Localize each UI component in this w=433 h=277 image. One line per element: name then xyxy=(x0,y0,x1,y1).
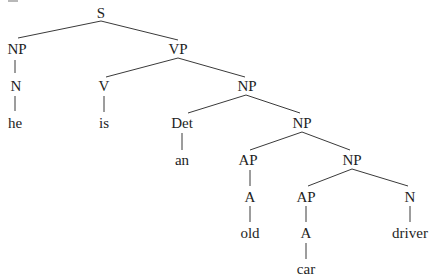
edge-s-vp xyxy=(101,21,178,40)
edge-s-np1 xyxy=(18,21,101,38)
node-det: Det xyxy=(171,115,193,131)
node-np4: NP xyxy=(342,152,361,168)
node-is: is xyxy=(99,115,109,131)
node-n1: N xyxy=(11,78,22,94)
node-v: V xyxy=(99,78,110,94)
node-n2: N xyxy=(405,189,416,205)
node-he: he xyxy=(8,115,23,131)
tree-edges xyxy=(15,21,410,259)
node-driver: driver xyxy=(392,225,428,241)
edge-np4-ap2 xyxy=(308,169,352,186)
edge-np4-n2 xyxy=(352,169,408,186)
node-np3: NP xyxy=(292,115,311,131)
node-old: old xyxy=(240,225,260,241)
node-car: car xyxy=(297,261,315,277)
syntax-tree-diagram: SNPVPNVNPheisDetNPanAPNPAAPNoldAdriverca… xyxy=(0,0,433,277)
node-vp: VP xyxy=(168,41,187,57)
edge-np3-ap1 xyxy=(250,132,302,150)
edge-np2-det xyxy=(188,95,246,113)
edge-vp-v xyxy=(106,58,178,77)
node-np1: NP xyxy=(7,41,26,57)
node-ap2: AP xyxy=(296,189,315,205)
tree-nodes: SNPVPNVNPheisDetNPanAPNPAAPNoldAdriverca… xyxy=(7,5,428,277)
node-a2: A xyxy=(301,225,312,241)
edge-np2-np3 xyxy=(246,95,300,113)
edge-vp-np2 xyxy=(178,58,245,77)
node-an: an xyxy=(175,152,190,168)
node-a1: A xyxy=(245,189,256,205)
edge-np3-np4 xyxy=(302,132,350,150)
node-s: S xyxy=(97,5,105,21)
node-np2: NP xyxy=(237,78,256,94)
node-ap1: AP xyxy=(238,152,257,168)
